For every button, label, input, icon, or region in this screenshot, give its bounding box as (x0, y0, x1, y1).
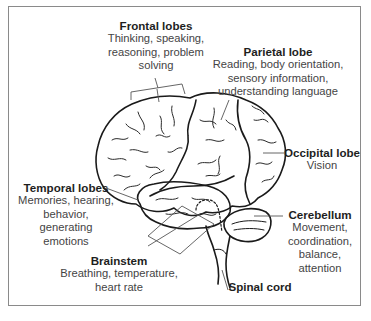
cerebellum-title: Cerebellum (282, 208, 358, 221)
cerebellum-desc-3: balance, (282, 248, 358, 261)
label-brainstem: Brainstem Breathing, temperature, heart … (60, 254, 178, 294)
temporal-desc-2: behavior, generating (16, 208, 116, 235)
brainstem (206, 226, 219, 284)
parietal-desc-2: sensory information, (203, 72, 353, 85)
brainstem-title: Brainstem (60, 254, 178, 267)
occipital-desc-1: Vision (282, 159, 362, 172)
label-spinal-cord: Spinal cord (220, 280, 300, 293)
label-occipital-lobe: Occipital lobe Vision (282, 146, 362, 173)
cerebrum-outline (96, 93, 285, 216)
frontal-leader (131, 78, 185, 102)
brainstem-desc-1: Breathing, temperature, (60, 267, 178, 280)
frontal-title: Frontal lobes (95, 19, 217, 32)
cerebellum (224, 209, 271, 242)
spinal-title: Spinal cord (220, 280, 300, 293)
temporal-title: Temporal lobes (16, 181, 116, 194)
temporal-desc-3: emotions (16, 235, 116, 248)
parieto-occipital-sulcus (237, 100, 250, 204)
label-temporal-lobes: Temporal lobes Memories, hearing, behavi… (16, 181, 116, 248)
temporal-desc-1: Memories, hearing, (16, 194, 116, 207)
label-frontal-lobes: Frontal lobes Thinking, speaking, reason… (95, 19, 217, 73)
parietal-title: Parietal lobe (203, 45, 353, 58)
label-cerebellum: Cerebellum Movement, coordination, balan… (282, 208, 358, 275)
cerebellum-desc-2: coordination, (282, 235, 358, 248)
parietal-desc-1: Reading, body orientation, (203, 58, 353, 71)
brainstem-desc-2: heart rate (60, 281, 178, 294)
parietal-leader (221, 100, 229, 120)
cerebellum-desc-4: attention (282, 262, 358, 275)
lateral-fissure (150, 176, 234, 196)
frontal-desc-1: Thinking, speaking, (95, 32, 217, 45)
occipital-title: Occipital lobe (282, 146, 362, 159)
cerebellum-desc-1: Movement, (282, 221, 358, 234)
frontal-desc-2: reasoning, problem (95, 46, 217, 59)
central-sulcus (160, 100, 196, 190)
parietal-desc-3: understanding language (203, 85, 353, 98)
frontal-desc-3: solving (95, 59, 217, 72)
label-parietal-lobe: Parietal lobe Reading, body orientation,… (203, 45, 353, 99)
